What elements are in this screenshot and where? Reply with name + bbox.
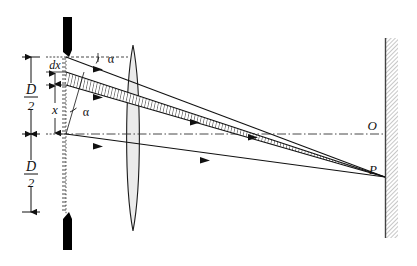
label-dx: dx	[49, 58, 61, 72]
ray-top-edge	[66, 57, 385, 177]
ray-axis	[66, 134, 385, 177]
arrowhead-ray-top-edge	[93, 66, 103, 73]
aperture-blade-top	[63, 17, 72, 57]
label-point-P: P	[368, 162, 377, 177]
label-D-upper-numerator: D	[25, 82, 36, 97]
ray-band-upper	[66, 72, 385, 177]
dimension-D-brackets: D 2 D 2	[20, 57, 44, 212]
converging-lens	[127, 45, 140, 231]
label-point-O: O	[368, 118, 378, 133]
label-alpha-lower: α	[83, 105, 90, 119]
screen-hatching	[386, 38, 398, 238]
label-D-lower-denominator: 2	[28, 175, 35, 190]
label-D-lower-numerator: D	[25, 159, 36, 174]
label-x: x	[51, 102, 58, 117]
ray-band-lower	[66, 85, 385, 177]
ray-group	[66, 57, 385, 177]
arrowhead-ray-axis-far	[200, 157, 210, 164]
aperture-plane-ticks	[62, 59, 66, 210]
label-D-upper-denominator: 2	[28, 98, 35, 113]
aperture-plane	[62, 57, 66, 215]
dimension-dx-x: dx x	[46, 57, 66, 134]
observation-screen	[386, 38, 399, 238]
arrowhead-ray-axis-near	[93, 143, 103, 150]
figure-canvas: D 2 D 2 dx x	[0, 0, 417, 266]
label-alpha-upper: α	[108, 52, 115, 66]
aperture-blade-bottom	[63, 212, 72, 250]
angle-alpha-upper: α	[96, 52, 115, 66]
optics-diagram-svg: D 2 D 2 dx x	[0, 0, 417, 266]
